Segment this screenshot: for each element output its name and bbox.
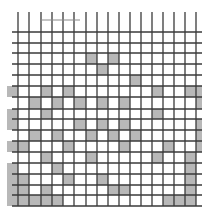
shaded-cell <box>152 86 163 97</box>
shaded-cell <box>41 152 52 163</box>
shaded-grid-diagram <box>0 0 211 216</box>
shaded-cell <box>108 185 119 195</box>
shaded-cell <box>86 130 97 141</box>
shaded-cell <box>97 119 108 130</box>
shaded-cell <box>196 141 202 152</box>
shaded-cell <box>18 185 29 195</box>
shaded-cell <box>41 86 52 97</box>
shaded-cell <box>196 119 202 130</box>
shaded-cell <box>74 97 86 109</box>
shaded-cell <box>7 185 18 195</box>
shaded-cell <box>7 141 18 152</box>
shaded-cell <box>196 130 202 141</box>
shaded-cell <box>29 130 41 141</box>
shaded-cell <box>63 86 74 97</box>
shaded-cell <box>52 97 63 109</box>
shaded-cell <box>108 53 119 64</box>
shaded-cell <box>174 195 185 206</box>
shaded-cell <box>52 130 63 141</box>
shaded-cell <box>41 109 52 119</box>
shaded-cell <box>185 86 196 97</box>
shaded-cell <box>130 75 141 86</box>
shaded-cell <box>119 97 130 109</box>
shaded-cell <box>52 163 63 174</box>
shaded-cell <box>119 141 130 152</box>
shaded-cell <box>86 53 97 64</box>
shaded-cell <box>86 152 97 163</box>
shaded-cell <box>7 119 18 130</box>
shaded-cell <box>119 119 130 130</box>
shaded-cell <box>18 195 29 206</box>
shaded-cell <box>196 86 202 97</box>
shaded-cell <box>108 130 119 141</box>
shaded-cell <box>18 174 29 185</box>
shaded-cell <box>163 195 174 206</box>
shaded-cell <box>52 195 63 206</box>
shaded-cell <box>7 195 18 206</box>
shaded-cell <box>185 163 196 174</box>
shaded-cell <box>119 185 130 195</box>
shaded-cell <box>152 109 163 119</box>
shaded-cell <box>41 185 52 195</box>
shaded-cell <box>7 109 18 119</box>
shaded-cell <box>7 163 18 174</box>
shaded-cell <box>7 174 18 185</box>
shaded-cell <box>18 141 29 152</box>
shaded-cell <box>152 152 163 163</box>
shaded-cell <box>74 119 86 130</box>
shaded-cell <box>97 64 108 75</box>
shaded-cell <box>185 152 196 163</box>
shaded-cell <box>63 141 74 152</box>
shaded-cell <box>41 195 52 206</box>
shaded-cell <box>29 97 41 109</box>
shaded-cell <box>185 174 196 185</box>
shaded-cell <box>185 195 196 206</box>
shaded-cell <box>63 174 74 185</box>
shaded-cell <box>97 174 108 185</box>
shaded-cell <box>196 97 202 109</box>
shaded-cell <box>185 185 196 195</box>
shaded-cell <box>97 97 108 109</box>
shaded-cell <box>29 195 41 206</box>
shaded-cell <box>130 130 141 141</box>
shaded-cell <box>163 141 174 152</box>
shaded-cell <box>7 86 18 97</box>
